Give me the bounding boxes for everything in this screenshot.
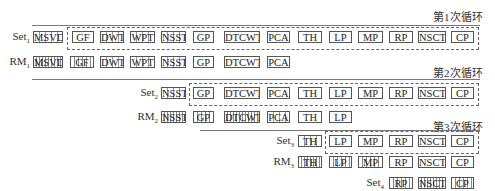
set-1-label-text: Set: [12, 30, 26, 42]
iteration-diagram: 第1次循环 Set1 MSVD GF DWT WPT NSST GP DTCWT…: [0, 0, 495, 191]
rm-3-item: RP: [389, 156, 413, 168]
set-3-label: Set3: [262, 134, 294, 149]
set-1-item: MP: [358, 31, 383, 43]
set-4-item: CP: [451, 177, 474, 189]
set-1-item: RP: [389, 31, 413, 43]
rm-2-item: LP: [329, 111, 352, 123]
set-1-item: TH: [298, 31, 322, 43]
rm-3-item: MP: [358, 156, 383, 168]
set-2-label-text: Set: [140, 86, 154, 98]
rm-3-label: RM3: [262, 155, 294, 170]
set-3-item: LP: [329, 135, 352, 147]
set-1-label: Set1: [4, 30, 30, 45]
set-1-item: DWT: [100, 31, 124, 43]
set-2-item: GP: [193, 87, 214, 99]
set-1-item: WPT: [130, 31, 155, 43]
rm-2-item: NSST: [161, 111, 186, 123]
loop-1-label: 第1次循环: [433, 8, 483, 24]
set-1-item: MSVD: [33, 31, 63, 43]
set-1-item: PCA: [267, 31, 290, 43]
set-3-item: CP: [451, 135, 474, 147]
rm-3-item: NSCT: [418, 156, 446, 168]
set-3-label-text: Set: [276, 134, 290, 146]
set-2-item: LP: [329, 87, 352, 99]
rm-2-item: PCA: [267, 111, 290, 123]
set-1-item: GP: [193, 31, 214, 43]
set-4-label-sub: 4: [381, 183, 385, 191]
set-2-item: DTCWT: [224, 87, 260, 99]
set-2-item: RP: [389, 87, 413, 99]
set-4-item: NSCT: [418, 177, 446, 189]
rm-3-item: TH: [298, 156, 322, 168]
rm-3-label-text: RM: [273, 155, 290, 167]
loop-2-rule: [32, 79, 480, 80]
loop-2-label: 第2次循环: [433, 64, 483, 80]
rm-3-item: LP: [329, 156, 352, 168]
set-3-item: RP: [389, 135, 413, 147]
set-1-item: NSST: [161, 31, 186, 43]
set-2-item: NSCT: [418, 87, 446, 99]
rm-1-item: GP: [193, 56, 214, 68]
set-2-item: MP: [358, 87, 383, 99]
set-2-label: Set2: [128, 86, 158, 101]
set-1-item: CP: [451, 31, 474, 43]
rm-1-label-sub: 1: [27, 62, 31, 70]
rm-1-label-text: RM: [9, 55, 26, 67]
set-1-label-sub: 1: [27, 37, 31, 45]
rm-1-item: WPT: [130, 56, 155, 68]
rm-2-item: DTCWT: [224, 111, 260, 123]
rm-2-label-sub: 2: [155, 117, 159, 125]
set-3-item: TH: [298, 135, 322, 147]
rm-1-label: RM1: [4, 55, 30, 70]
set-4-label: Set4: [352, 176, 384, 191]
rm-3-item: CP: [451, 156, 474, 168]
rm-2-label: RM2: [128, 110, 158, 125]
set-3-item: MP: [358, 135, 383, 147]
set-1-item: LP: [329, 31, 352, 43]
set-1-item: GF: [72, 31, 94, 43]
rm-1-item: GF: [70, 56, 94, 68]
set-4-label-text: Set: [366, 176, 380, 188]
set-1-item: NSCT: [418, 31, 446, 43]
rm-1-item: MSVD: [33, 56, 63, 68]
rm-2-label-text: RM: [137, 110, 154, 122]
rm-2-item: GP: [193, 111, 214, 123]
set-3-label-sub: 3: [291, 141, 295, 149]
set-2-item: PCA: [267, 87, 290, 99]
rm-1-item: DWT: [100, 56, 124, 68]
set-4-item: RP: [389, 177, 413, 189]
set-2-item: TH: [298, 87, 322, 99]
set-3-item: NSCT: [418, 135, 446, 147]
loop-1-rule: [32, 25, 480, 26]
set-2-label-sub: 2: [155, 93, 159, 101]
set-2-item: NSST: [161, 87, 186, 99]
rm-3-label-sub: 3: [291, 162, 295, 170]
rm-2-item: TH: [298, 111, 322, 123]
rm-1-item: NSST: [161, 56, 186, 68]
rm-1-item: DTCWT: [224, 56, 260, 68]
rm-1-item: PCA: [267, 56, 290, 68]
set-2-item: CP: [451, 87, 474, 99]
set-1-item: DTCWT: [224, 31, 260, 43]
